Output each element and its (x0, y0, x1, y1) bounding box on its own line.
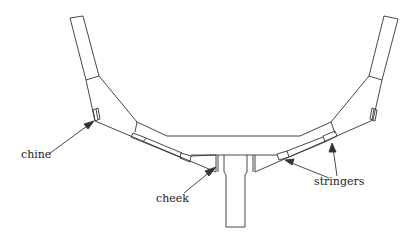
hull-cross-section-diagram: chine cheek stringers (0, 0, 415, 238)
stringers-arrow-right (329, 143, 337, 176)
left-topside-plank (70, 16, 137, 122)
left-cheek (216, 155, 218, 172)
hull-drawing (0, 0, 415, 238)
right-bottom-plank (255, 120, 373, 172)
chine-arrow (49, 121, 94, 154)
right-topside-plank (331, 16, 398, 122)
right-cheek (253, 155, 255, 172)
label-chine: chine (21, 148, 51, 161)
keel (224, 155, 247, 227)
label-stringers: stringers (314, 175, 364, 188)
label-cheek: cheek (156, 192, 189, 205)
cheek-arrow (184, 167, 216, 193)
left-chine-block (93, 108, 100, 121)
left-bottom-plank (95, 121, 216, 172)
